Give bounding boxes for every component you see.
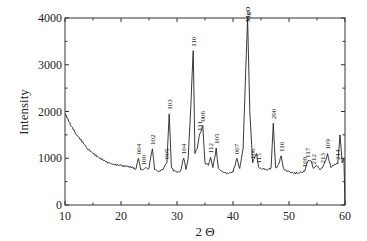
x-axis-title: 2 Θ: [195, 224, 214, 239]
peak-label: 100: [140, 154, 148, 165]
peak-label: 116: [278, 141, 286, 152]
peak-label: 007: [233, 143, 241, 154]
peak-label: 213: [319, 153, 327, 164]
peak-label: 212: [310, 154, 318, 165]
x-tick-label: 40: [227, 209, 239, 223]
peak-label: MgO: [244, 6, 252, 22]
y-axis-title: Intensity: [16, 89, 31, 135]
peak-label: 115: [255, 153, 263, 164]
peak-label: 105: [213, 133, 221, 144]
x-tick-label: 60: [339, 209, 351, 223]
plot-area: 004100102005103104110111006112105007MgO1…: [65, 6, 345, 205]
x-tick-label: 30: [171, 209, 183, 223]
y-tick-label: 2000: [38, 105, 62, 119]
peak-label: 104: [180, 143, 188, 154]
peak-label: 109: [324, 139, 332, 150]
peak-label: 103: [166, 99, 174, 110]
peak-label: 110: [190, 36, 198, 47]
y-tick-label: 0: [56, 198, 62, 212]
xrd-chart: 004100102005103104110111006112105007MgO1…: [0, 0, 367, 241]
peak-label: 005: [163, 148, 171, 159]
peak-label: 004: [135, 143, 143, 154]
x-tick-label: 50: [283, 209, 295, 223]
x-tick-label: 20: [115, 209, 127, 223]
peak-label: 200: [270, 108, 278, 119]
peak-label: 102: [149, 134, 157, 145]
y-tick-label: 4000: [38, 11, 62, 25]
peak-label: 006: [199, 111, 207, 122]
y-tick-label: 3000: [38, 58, 62, 72]
y-tick-label: 1000: [38, 151, 62, 165]
